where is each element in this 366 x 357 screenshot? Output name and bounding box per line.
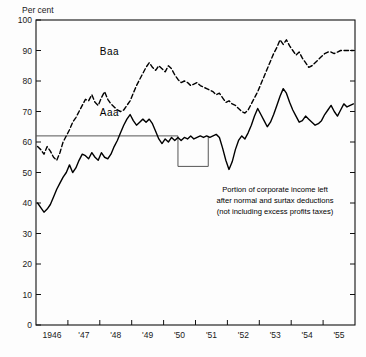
plot-frame: [36, 20, 355, 325]
x-tick-label-1946: 1946: [42, 330, 61, 340]
tax-note-line-2: after normal and surtax deductions: [217, 196, 334, 205]
x-axis-ticks: 1946'47'48'49'50'51'52'53'54'55: [42, 320, 344, 340]
chart-svg: Per cent 0102030405060708090100 1946'47'…: [0, 0, 366, 357]
y-tick-label-100: 100: [18, 15, 32, 25]
series-label-aaa: Aaa: [100, 107, 119, 118]
y-tick-label-70: 70: [23, 107, 33, 117]
y-tick-label-60: 60: [23, 137, 33, 147]
x-tick-label-'52: '52: [238, 330, 249, 340]
y-tick-label-30: 30: [23, 229, 33, 239]
y-axis-caption: Per cent: [22, 5, 54, 15]
tax-note-line-3: (not including excess profits taxes): [217, 207, 334, 216]
chart-figure: Per cent 0102030405060708090100 1946'47'…: [0, 0, 366, 357]
tax-note-annotation: Portion of corporate income left after n…: [217, 185, 334, 216]
y-tick-label-20: 20: [23, 259, 33, 269]
right-axis-ticks: [350, 51, 355, 295]
x-tick-label-'53: '53: [270, 330, 281, 340]
x-tick-label-'47: '47: [78, 330, 89, 340]
y-tick-label-90: 90: [23, 46, 33, 56]
y-tick-label-50: 50: [23, 168, 33, 178]
y-tick-label-40: 40: [23, 198, 33, 208]
y-tick-label-10: 10: [23, 290, 33, 300]
reference-step-line: [36, 136, 208, 167]
reference-step-path: [36, 136, 208, 167]
y-tick-label-0: 0: [27, 320, 32, 330]
x-tick-label-'55: '55: [334, 330, 345, 340]
series-label-baa: Baa: [100, 46, 119, 57]
x-tick-label-'50: '50: [174, 330, 185, 340]
x-tick-label-'51: '51: [206, 330, 217, 340]
y-axis-ticks: 0102030405060708090100: [18, 15, 41, 330]
x-tick-label-'48: '48: [110, 330, 121, 340]
tax-note-line-1: Portion of corporate income left: [222, 185, 328, 194]
series-path-baa: [38, 40, 354, 160]
y-tick-label-80: 80: [23, 76, 33, 86]
x-tick-label-'54: '54: [302, 330, 313, 340]
x-tick-label-'49: '49: [142, 330, 153, 340]
